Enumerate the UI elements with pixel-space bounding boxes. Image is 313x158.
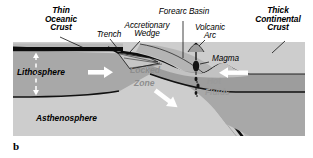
figure-panel-b: Thin Oceanic Crust Trench Accretionary W… <box>0 0 313 158</box>
label-hot-fluids-line1: Hot <box>207 77 221 86</box>
ocean-water-band <box>13 44 123 48</box>
hot-fluid-droplet-2 <box>196 84 199 89</box>
label-magma: Magma <box>212 55 260 63</box>
label-forearc-basin: Forearc Basin <box>148 8 220 16</box>
label-lithosphere: Lithosphere <box>17 68 85 77</box>
label-accretionary-wedge: Accretionary Wedge <box>114 22 180 39</box>
label-hot-fluids-line2: Fluids <box>205 88 230 97</box>
hot-fluid-droplet-3 <box>195 91 198 95</box>
hot-fluid-droplet-1 <box>195 77 198 82</box>
panel-letter-label: b <box>13 140 19 152</box>
label-volcanic-arc: Volcanic Arc <box>188 24 232 41</box>
label-asthenosphere: Asthenosphere <box>36 114 126 123</box>
label-locked-zone-line2: Zone <box>134 79 155 88</box>
label-thin-oceanic-crust: Thin Oceanic Crust <box>22 6 100 32</box>
magma-chamber <box>193 60 199 71</box>
label-locked-zone-line1: Locked <box>130 66 160 75</box>
label-thick-continental-crust: Thick Continental Crust <box>245 6 311 32</box>
